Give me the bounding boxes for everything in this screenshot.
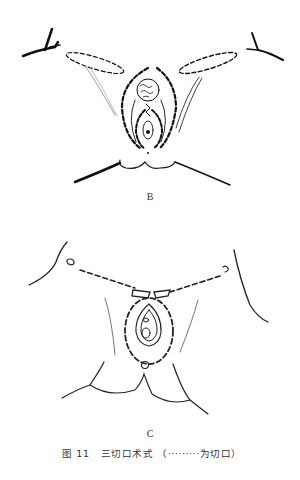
- illustration-panel-b: [0, 0, 300, 240]
- panel-label-c: C: [0, 428, 300, 439]
- figure-number: 图 11: [62, 448, 89, 459]
- panel-label-b: B: [0, 191, 300, 202]
- illustration-panel-c: [0, 240, 300, 430]
- figure-title: 三切口术式: [101, 448, 154, 459]
- figure-note: （·········为切口）: [157, 448, 241, 459]
- figure-caption: 图 11 三切口术式（·········为切口）: [0, 446, 300, 460]
